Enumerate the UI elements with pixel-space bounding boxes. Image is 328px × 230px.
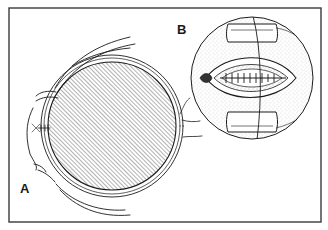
panel-a-eye bbox=[27, 37, 202, 215]
panel-b-inset bbox=[190, 16, 314, 140]
figure-canvas: A B bbox=[0, 0, 328, 230]
panel-label-a: A bbox=[20, 182, 29, 195]
panel-label-b: B bbox=[177, 23, 186, 36]
illustration-svg bbox=[0, 0, 328, 230]
